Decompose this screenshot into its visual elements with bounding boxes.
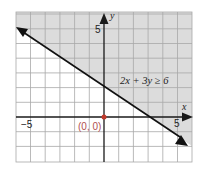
x-tick-5: 5 xyxy=(174,118,180,129)
y-axis-label: y xyxy=(109,10,115,21)
test-point-label: (0, 0) xyxy=(78,121,101,132)
test-point xyxy=(102,115,107,120)
inequality-label: 2x + 3y ≥ 6 xyxy=(120,75,169,86)
y-tick-5: 5 xyxy=(95,24,101,35)
inequality-graph: (0, 0) −5 5 5 x y 2x + 3y ≥ 6 xyxy=(0,0,201,171)
x-axis-label: x xyxy=(181,101,187,112)
x-tick-neg5: −5 xyxy=(21,119,33,130)
